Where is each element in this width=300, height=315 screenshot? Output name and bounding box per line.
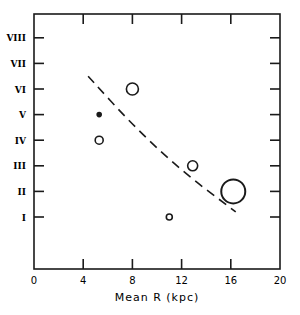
plot-frame (34, 14, 280, 269)
data-point (166, 214, 172, 220)
data-point (126, 83, 138, 95)
x-tick-label: 4 (80, 275, 86, 286)
y-tick-label: VII (10, 59, 26, 69)
y-tick-label: IV (15, 136, 27, 146)
x-axis-ticks: 048121620 (31, 14, 287, 286)
x-tick-label: 12 (175, 275, 188, 286)
x-tick-label: 20 (274, 275, 287, 286)
x-tick-label: 0 (31, 275, 37, 286)
x-axis-title: Mean R (kpc) (115, 291, 200, 304)
x-tick-label: 8 (129, 275, 135, 286)
y-tick-label: VI (14, 85, 26, 95)
data-points (95, 83, 245, 220)
data-point (97, 113, 101, 117)
y-tick-label: III (13, 161, 26, 171)
y-tick-label: VIII (5, 33, 26, 43)
scatter-chart: 048121620 IIIIIIIVVVIVIIVIII Mean R (kpc… (0, 0, 300, 315)
y-tick-label: V (18, 110, 27, 120)
data-point (95, 136, 103, 144)
dashed-trend-line (88, 76, 236, 212)
data-point (221, 179, 245, 203)
x-tick-label: 16 (224, 275, 237, 286)
y-tick-label: I (22, 213, 26, 223)
data-point (188, 161, 198, 171)
y-axis-ticks: IIIIIIIVVVIVIIVIII (5, 33, 280, 222)
y-tick-label: II (18, 187, 26, 197)
